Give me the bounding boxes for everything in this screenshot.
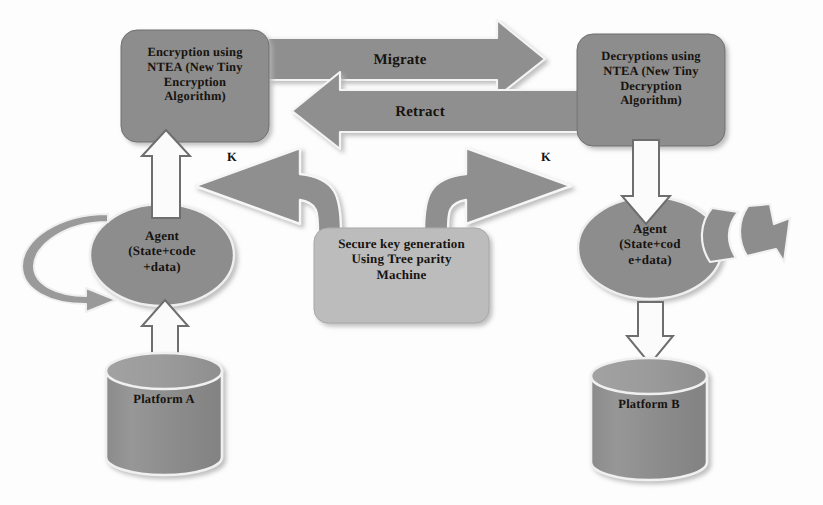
agent-right-to-platform-b-arrow-shape	[627, 302, 673, 364]
diagram-canvas: Encryption using NTEA (New Tiny Encrypti…	[0, 0, 823, 505]
migrate-arrow-shape	[268, 20, 545, 97]
agent-right-bent-arrow-shape	[702, 204, 790, 262]
retract-arrow-shape	[292, 72, 578, 149]
platform-a-shape[interactable]	[106, 353, 222, 475]
agent-left-shape[interactable]	[90, 204, 234, 306]
encryption-box-shape[interactable]	[121, 30, 269, 142]
key-left-arrow-shape	[195, 148, 341, 232]
platform-b-shape[interactable]	[591, 358, 707, 480]
decryption-box-shape[interactable]	[577, 34, 725, 146]
platform-a-to-agent-left-arrow-shape	[142, 300, 188, 356]
key-generation-box-shape[interactable]	[314, 228, 489, 323]
key-right-arrow-shape	[424, 148, 571, 232]
diagram-graphics	[0, 0, 823, 505]
